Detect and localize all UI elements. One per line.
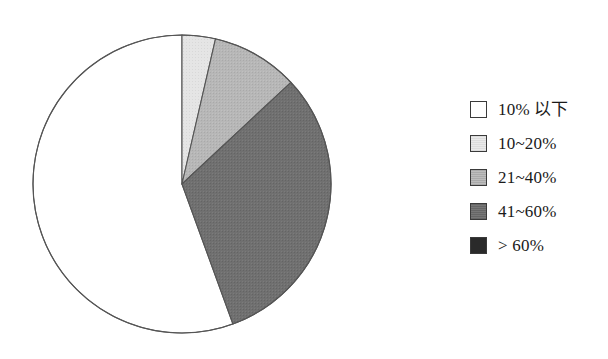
- legend-swatch-41-to-60: [470, 203, 487, 220]
- pie-chart-svg: [0, 0, 380, 359]
- legend-label-over-60: > 60%: [498, 237, 544, 254]
- legend-swatch-10-to-20: [470, 135, 487, 152]
- pie-slices-group: [33, 35, 331, 333]
- legend-label-10-to-20: 10~20%: [498, 135, 557, 152]
- legend-label-41-to-60: 41~60%: [498, 203, 557, 220]
- legend-label-10-percent-or-less: 10% 以下: [498, 101, 569, 118]
- legend-item-over-60[interactable]: > 60%: [470, 228, 602, 262]
- legend-item-10-percent-or-less[interactable]: 10% 以下: [470, 92, 602, 126]
- pie-chart-plot-area: [0, 0, 380, 359]
- chart-legend: 10% 以下 10~20% 21~40% 41~60% > 60%: [470, 92, 602, 262]
- legend-swatch-10-percent-or-less: [470, 101, 487, 118]
- pie-chart-figure: 10% 以下 10~20% 21~40% 41~60% > 60%: [0, 0, 608, 359]
- legend-item-41-to-60[interactable]: 41~60%: [470, 194, 602, 228]
- legend-label-21-to-40: 21~40%: [498, 169, 557, 186]
- legend-item-10-to-20[interactable]: 10~20%: [470, 126, 602, 160]
- legend-swatch-21-to-40: [470, 169, 487, 186]
- legend-item-21-to-40[interactable]: 21~40%: [470, 160, 602, 194]
- legend-swatch-over-60: [470, 237, 487, 254]
